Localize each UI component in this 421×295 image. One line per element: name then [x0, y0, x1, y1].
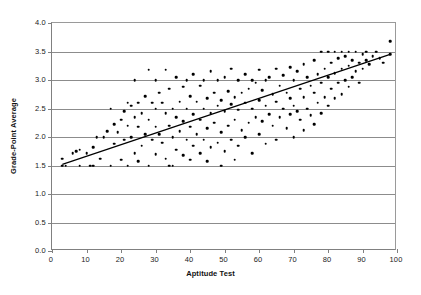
- data-point: [178, 130, 181, 133]
- data-point: [185, 107, 188, 110]
- data-point: [102, 136, 105, 139]
- data-point: [168, 164, 171, 167]
- data-point: [320, 112, 323, 115]
- x-tick-mark: [121, 249, 122, 253]
- y-tick-mark: [48, 23, 52, 24]
- data-point: [278, 84, 281, 87]
- data-point: [220, 164, 223, 167]
- data-point: [354, 50, 357, 53]
- x-tick-mark: [294, 249, 295, 253]
- data-point: [351, 76, 354, 79]
- data-point: [137, 160, 140, 163]
- data-point: [216, 79, 219, 82]
- x-tick-label: 80: [312, 255, 342, 264]
- data-point: [223, 150, 226, 153]
- data-point: [175, 76, 178, 79]
- data-point: [140, 144, 143, 147]
- data-point: [344, 79, 347, 82]
- data-point: [337, 57, 340, 60]
- data-point: [78, 148, 81, 151]
- data-point: [96, 136, 99, 139]
- x-tick-mark: [328, 249, 329, 253]
- data-point: [213, 121, 216, 124]
- y-tick-mark: [48, 223, 52, 224]
- data-point: [244, 102, 247, 105]
- data-point: [265, 104, 268, 107]
- data-point: [196, 133, 199, 136]
- data-point: [209, 146, 212, 149]
- data-point: [378, 57, 381, 60]
- y-tick-mark: [48, 194, 52, 195]
- data-point: [203, 79, 206, 82]
- data-point: [341, 50, 344, 53]
- x-tick-mark: [156, 249, 157, 253]
- data-point: [130, 136, 133, 139]
- data-point: [130, 104, 133, 107]
- data-point: [227, 124, 230, 127]
- data-point: [272, 93, 275, 96]
- data-point: [134, 152, 137, 155]
- data-point: [258, 133, 261, 136]
- data-point: [116, 131, 119, 134]
- data-point: [244, 73, 247, 76]
- data-point: [206, 97, 209, 100]
- data-point: [182, 154, 185, 157]
- data-point: [99, 157, 102, 160]
- data-point: [61, 157, 64, 160]
- x-tick-label: 0: [36, 255, 66, 264]
- x-tick-label: 30: [140, 255, 170, 264]
- data-point: [192, 144, 195, 147]
- data-point: [213, 91, 216, 94]
- data-point: [223, 76, 226, 79]
- data-point: [206, 127, 209, 130]
- data-point: [144, 133, 147, 136]
- data-point: [278, 116, 281, 119]
- x-tick-label: 70: [278, 255, 308, 264]
- y-tick-label: 3.0: [18, 75, 46, 84]
- y-tick-mark: [48, 52, 52, 53]
- data-point: [61, 164, 64, 167]
- data-point: [240, 91, 243, 94]
- data-point: [347, 64, 350, 67]
- data-point: [306, 76, 309, 79]
- data-point: [289, 113, 292, 116]
- data-point: [216, 141, 219, 144]
- data-point: [161, 141, 164, 144]
- data-point: [151, 102, 154, 105]
- data-point: [185, 139, 188, 142]
- data-point: [389, 40, 392, 43]
- data-point: [182, 120, 185, 123]
- y-tick-mark: [48, 137, 52, 138]
- data-point: [134, 79, 137, 82]
- data-point: [206, 160, 209, 163]
- data-point: [389, 53, 392, 56]
- data-point: [365, 59, 368, 62]
- data-point: [75, 150, 78, 153]
- data-point: [175, 116, 178, 119]
- data-point: [292, 104, 295, 107]
- data-point: [309, 114, 312, 117]
- data-point: [299, 87, 302, 90]
- data-point: [199, 84, 202, 87]
- data-point: [189, 125, 192, 128]
- data-point: [244, 136, 247, 139]
- data-point: [158, 133, 161, 136]
- data-point: [303, 96, 306, 99]
- data-point: [341, 93, 344, 96]
- data-point: [234, 119, 237, 122]
- data-point: [237, 144, 240, 147]
- x-tick-mark: [87, 249, 88, 253]
- data-point: [251, 79, 254, 82]
- y-tick-mark: [48, 109, 52, 110]
- data-point: [168, 87, 171, 90]
- data-point: [382, 62, 385, 65]
- x-tick-label: 50: [209, 255, 239, 264]
- data-point: [365, 50, 368, 53]
- data-point: [320, 82, 323, 85]
- data-point: [251, 152, 254, 155]
- data-point: [171, 107, 174, 110]
- data-point: [358, 62, 361, 65]
- data-point: [268, 113, 271, 116]
- y-tick-label: 2.0: [18, 132, 46, 141]
- data-point: [192, 113, 195, 116]
